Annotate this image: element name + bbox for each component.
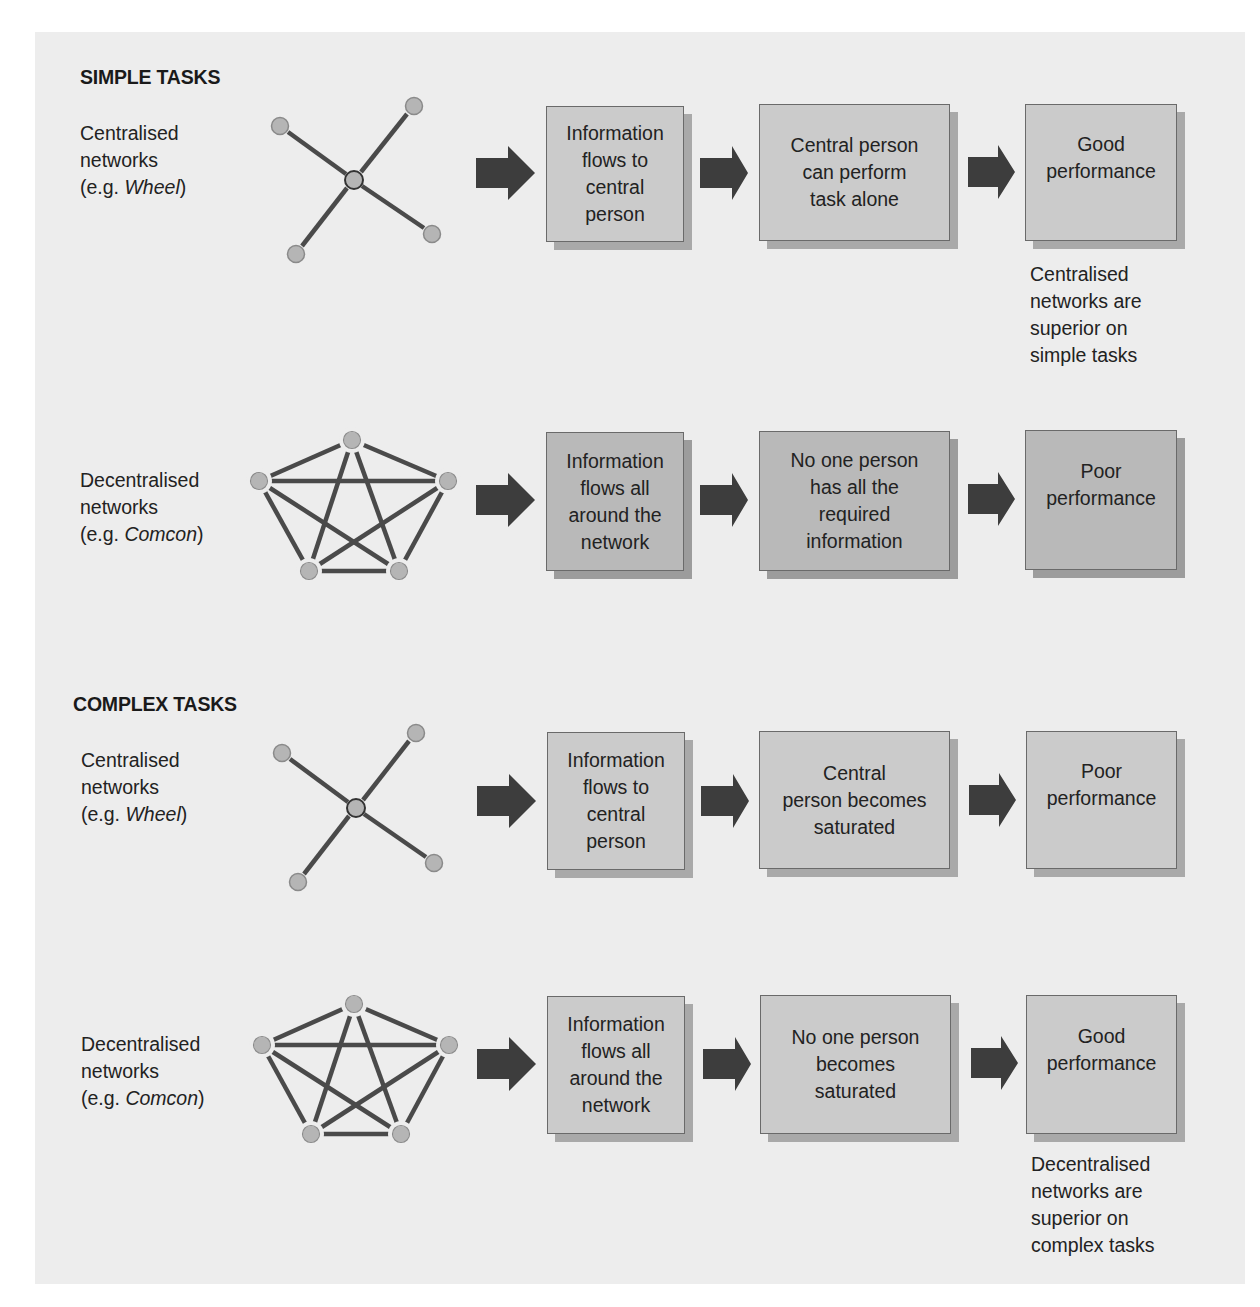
arrow-right-icon [700, 146, 760, 200]
arrow-right-icon [701, 774, 761, 828]
outcome-box-good-performance: Good performance [1025, 104, 1177, 241]
outcome-box-poor-performance: Poor performance [1026, 731, 1177, 869]
arrow-right-icon [477, 1037, 537, 1091]
step-box-info-flow-central: Information flows to central person [546, 106, 684, 242]
step-box-info-flow-network: Information flows all around the network [547, 996, 685, 1134]
arrow-right-icon [700, 473, 760, 527]
arrow-right-icon [477, 774, 537, 828]
arrow-right-icon [703, 1037, 763, 1091]
step-box-no-one-saturated: No one person becomes saturated [760, 995, 951, 1134]
conclusion-note-centralised: Centralised networks are superior on sim… [1030, 261, 1142, 369]
arrow-right-icon [476, 473, 536, 527]
arrow-right-icon [476, 146, 536, 200]
arrow-right-icon [968, 145, 1028, 199]
outcome-box-good-performance: Good performance [1026, 995, 1177, 1134]
step-box-info-flow-central: Information flows to central person [547, 732, 685, 870]
arrow-right-icon [968, 472, 1028, 526]
step-box-central-saturated: Central person becomes saturated [759, 731, 950, 869]
conclusion-note-decentralised: Decentralised networks are superior on c… [1031, 1151, 1155, 1259]
step-box-central-performs-alone: Central person can perform task alone [759, 104, 950, 241]
step-box-no-one-has-info: No one person has all the required infor… [759, 431, 950, 571]
arrow-right-icon [969, 773, 1029, 827]
step-box-info-flow-network: Information flows all around the network [546, 432, 684, 571]
arrow-right-icon [971, 1036, 1031, 1090]
outcome-box-poor-performance: Poor performance [1025, 430, 1177, 570]
